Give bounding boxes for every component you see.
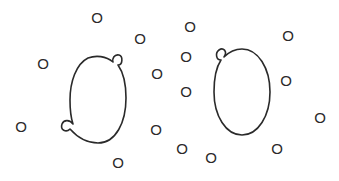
left-cell-membrane	[62, 55, 126, 143]
o-label: O	[184, 18, 196, 35]
o-label: O	[150, 121, 162, 138]
o-label: O	[15, 118, 27, 135]
o-label: O	[176, 140, 188, 157]
left-cell	[62, 55, 126, 143]
o-labels: OOOOOOOOOOOOOOOO	[15, 9, 326, 171]
o-label: O	[37, 55, 49, 72]
right-cell-membrane	[214, 49, 270, 135]
o-label: O	[91, 9, 103, 26]
o-label: O	[282, 27, 294, 44]
o-label: O	[151, 65, 163, 82]
o-label: O	[180, 48, 192, 65]
right-cell	[214, 49, 270, 135]
o-label: O	[134, 30, 146, 47]
o-label: O	[112, 154, 124, 171]
o-label: O	[314, 109, 326, 126]
o-label: O	[280, 72, 292, 89]
o-label: O	[271, 140, 283, 157]
o-label: O	[180, 83, 192, 100]
o-label: O	[205, 149, 217, 166]
cell-diagram: OOOOOOOOOOOOOOOO	[0, 0, 339, 181]
